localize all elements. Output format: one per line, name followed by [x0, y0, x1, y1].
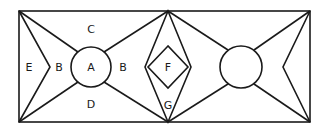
label-g: G: [164, 99, 173, 112]
region-diagram: A B B C D E F G: [0, 0, 324, 134]
line-bm-to-circle-right: [168, 84, 228, 122]
line-br-to-circle-right: [254, 84, 310, 122]
left-chevron: [19, 11, 50, 122]
line-tr-to-circle-right: [254, 11, 310, 50]
label-e: E: [26, 61, 33, 74]
label-d: D: [87, 98, 95, 111]
label-b-right: B: [119, 61, 127, 74]
line-tm-to-circle-a: [104, 11, 168, 52]
label-c: C: [87, 23, 95, 36]
line-bm-to-circle-a: [104, 82, 168, 122]
line-tl-to-circle-a: [19, 11, 78, 52]
circle-right: [220, 46, 262, 88]
line-bl-to-circle-a: [19, 82, 78, 122]
label-f: F: [165, 61, 171, 74]
label-a: A: [87, 61, 95, 74]
line-tm-to-circle-right: [168, 11, 228, 50]
label-b-left: B: [55, 61, 63, 74]
